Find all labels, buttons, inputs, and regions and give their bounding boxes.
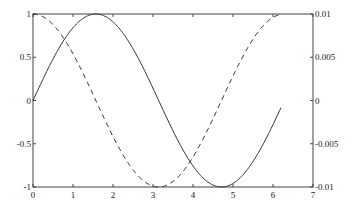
tick-label: 4: [191, 190, 196, 200]
tick-label: -0.01: [315, 182, 334, 192]
plot-area: 01234567-1-0.500.51-0.01-0.00500.0050.01: [0, 0, 353, 211]
tick-label: 5: [231, 190, 236, 200]
tick-label: -0.5: [17, 139, 32, 149]
cosine-dashed-line: [33, 14, 281, 187]
tick-label: -1: [24, 182, 32, 192]
tick-label: 2: [111, 190, 116, 200]
tick-label: 0: [315, 96, 320, 106]
tick-label: 0.01: [315, 9, 331, 19]
tick-label: 0.005: [315, 52, 336, 62]
ticks: [33, 14, 313, 187]
tick-label: 0: [27, 96, 32, 106]
tick-label: 1: [27, 9, 32, 19]
sine-line: [33, 14, 281, 187]
tick-label: 3: [151, 190, 156, 200]
tick-label: 0: [31, 190, 36, 200]
axes-box: [33, 14, 313, 187]
tick-label: 6: [271, 190, 276, 200]
tick-label: 1: [71, 190, 76, 200]
tick-label: -0.005: [315, 139, 339, 149]
tick-label: 0.5: [20, 52, 32, 62]
